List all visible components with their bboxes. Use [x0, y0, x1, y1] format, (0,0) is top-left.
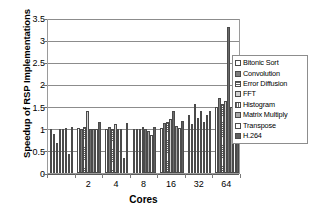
- bar: [98, 122, 101, 173]
- legend-item: Histogram: [235, 100, 305, 110]
- legend-label: FFT: [243, 90, 256, 98]
- y-tick-label: 3: [1, 37, 45, 46]
- bar: [126, 123, 129, 173]
- legend-swatch-icon: [235, 71, 241, 77]
- legend-item: Error Diffusion: [235, 79, 305, 89]
- y-tick-label: 1.5: [1, 103, 45, 112]
- x-tick-label: 2: [73, 179, 103, 190]
- x-tick-mark: [47, 174, 48, 178]
- bar-group: [158, 19, 186, 173]
- x-tick-label: 8: [129, 179, 159, 190]
- legend-label: Error Diffusion: [243, 80, 287, 88]
- bar: [181, 121, 184, 173]
- legend-swatch-icon: [235, 123, 241, 129]
- bar: [153, 127, 156, 174]
- legend-swatch-icon: [235, 112, 241, 118]
- y-tick-label: 2.5: [1, 59, 45, 68]
- bar-group: [131, 19, 159, 173]
- x-tick-mark: [185, 174, 186, 178]
- legend-label: Transpose: [243, 122, 276, 130]
- bar: [71, 127, 74, 174]
- x-tick-label: 64: [211, 179, 241, 190]
- legend-swatch-icon: [235, 133, 241, 139]
- legend-label: Bitonic Sort: [243, 59, 279, 67]
- y-axis-tick-labels: 00.511.522.533.5: [0, 19, 45, 174]
- chart-figure: Speedup of RSP Implementations 00.511.52…: [0, 0, 312, 220]
- x-axis-tick-labels: 248163264: [47, 179, 240, 192]
- legend-label: Histogram: [243, 101, 275, 109]
- chart-legend: Bitonic SortConvolutionError DiffusionFF…: [232, 55, 308, 144]
- y-tick-label: 3.5: [1, 15, 45, 24]
- legend-item: H.264: [235, 131, 305, 141]
- legend-item: Transpose: [235, 120, 305, 130]
- legend-item: Matrix Multiply: [235, 110, 305, 120]
- legend-swatch-icon: [235, 60, 241, 66]
- y-tick-label: 2: [1, 81, 45, 90]
- x-tick-mark: [130, 174, 131, 178]
- bar-series-container: [48, 19, 239, 173]
- legend-label: Matrix Multiply: [243, 111, 287, 119]
- x-axis-title: Cores: [47, 194, 240, 205]
- x-tick-mark: [102, 174, 103, 178]
- x-tick-mark: [75, 174, 76, 178]
- bar: [209, 111, 212, 173]
- legend-swatch-icon: [235, 81, 241, 87]
- bar-group: [186, 19, 214, 173]
- bar-group: [103, 19, 131, 173]
- legend-item: FFT: [235, 89, 305, 99]
- x-tick-label: 32: [184, 179, 214, 190]
- y-tick-label: 1: [1, 125, 45, 134]
- legend-item: Convolution: [235, 68, 305, 78]
- bar-group: [76, 19, 104, 173]
- legend-item: Bitonic Sort: [235, 58, 305, 68]
- legend-label: H.264: [243, 132, 262, 140]
- bar-group: [48, 19, 76, 173]
- x-tick-mark: [212, 174, 213, 178]
- x-tick-label: 4: [101, 179, 131, 190]
- legend-swatch-icon: [235, 91, 241, 97]
- y-tick-label: 0.5: [1, 147, 45, 156]
- legend-label: Convolution: [243, 70, 280, 78]
- y-tick-label: 0: [1, 170, 45, 179]
- legend-swatch-icon: [235, 102, 241, 108]
- plot-area: [47, 19, 240, 174]
- x-tick-mark: [240, 174, 241, 178]
- x-tick-mark: [157, 174, 158, 178]
- x-tick-label: 16: [156, 179, 186, 190]
